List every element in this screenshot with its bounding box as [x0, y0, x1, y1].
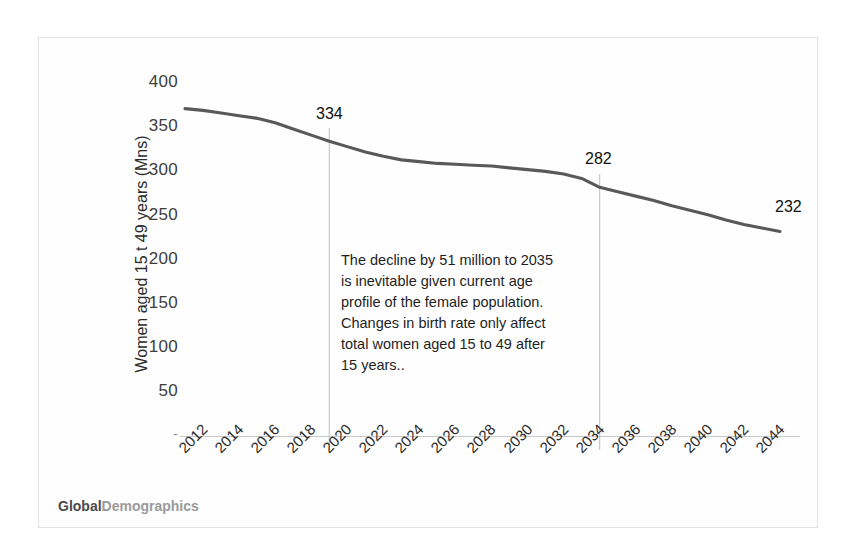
annotation-line-3: profile of the female population.	[341, 292, 613, 313]
x-tick-2014: 2014	[211, 420, 247, 456]
x-tick-2026: 2026	[427, 420, 463, 456]
chart-figure: -50100150200250300350400 Women aged 15 t…	[0, 0, 859, 560]
data-label-2020: 334	[316, 105, 343, 123]
brand-watermark: GlobalDemographics	[58, 498, 199, 514]
x-tick-2042: 2042	[716, 420, 752, 456]
x-tick-2020: 2020	[319, 420, 355, 456]
data-label-2045: 232	[775, 198, 802, 216]
x-tick-2040: 2040	[680, 420, 716, 456]
annotation-line-4: Changes in birth rate only affect	[341, 313, 613, 334]
x-tick-2022: 2022	[355, 420, 391, 456]
annotation-line-2: is inevitable given current age	[341, 271, 613, 292]
annotation-line-6: 15 years..	[341, 355, 613, 376]
x-tick-2016: 2016	[247, 420, 283, 456]
x-tick-2044: 2044	[752, 420, 788, 456]
x-tick-2038: 2038	[644, 420, 680, 456]
annotation-line-1: The decline by 51 million to 2035	[341, 250, 613, 271]
x-tick-2032: 2032	[536, 420, 572, 456]
annotation-text-block: The decline by 51 million to 2035 is ine…	[341, 250, 613, 376]
x-tick-2034: 2034	[572, 420, 608, 456]
x-tick-2036: 2036	[608, 420, 644, 456]
brand-global: Global	[58, 498, 102, 514]
x-tick-2028: 2028	[463, 420, 499, 456]
data-label-2035: 282	[585, 150, 612, 168]
x-tick-2018: 2018	[283, 420, 319, 456]
x-tick-2012: 2012	[175, 420, 211, 456]
x-tick-2030: 2030	[500, 420, 536, 456]
annotation-line-5: total women aged 15 to 49 after	[341, 334, 613, 355]
x-tick-2024: 2024	[391, 420, 427, 456]
brand-demographics: Demographics	[102, 498, 199, 514]
